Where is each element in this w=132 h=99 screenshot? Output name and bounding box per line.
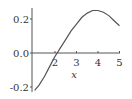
y-tick-label: 0.2 (13, 14, 29, 25)
data-line (35, 11, 120, 91)
x-tick-label: 4 (95, 57, 101, 68)
x-tick-label: 2 (52, 57, 58, 68)
x-ticks: 2345 (52, 51, 123, 68)
x-tick-label: 3 (73, 57, 79, 68)
x-axis-label: x (71, 69, 77, 80)
y-ticks: 0.20.0-0.2 (10, 14, 32, 93)
line-chart: 0.20.0-0.2 2345 x (0, 0, 132, 99)
y-tick-label: -0.2 (10, 82, 29, 93)
x-tick-label: 5 (116, 57, 122, 68)
y-tick-label: 0.0 (13, 48, 29, 59)
